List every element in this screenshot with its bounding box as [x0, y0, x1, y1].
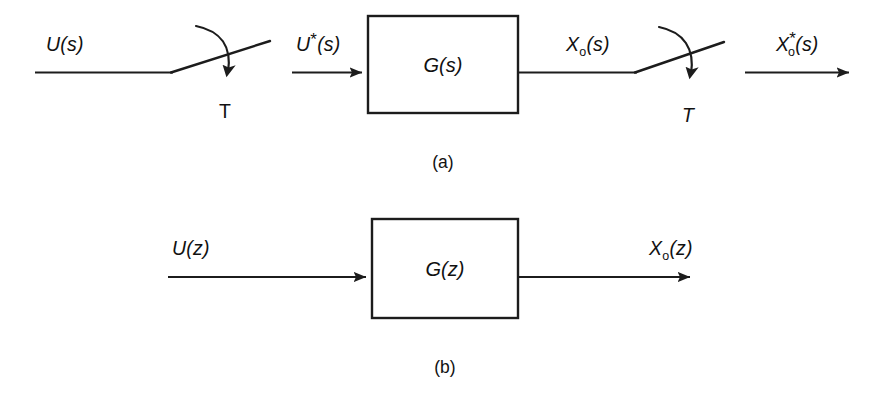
- label-u-star-s: U*(s): [296, 30, 340, 55]
- label-xo-z-sub: o: [662, 249, 669, 263]
- label-xo-star-s-sub: o: [788, 45, 795, 59]
- label-u-s-base: U: [46, 33, 61, 55]
- label-xo-z-arg: (z): [669, 237, 692, 259]
- label-xo-s-sub: o: [579, 45, 586, 59]
- label-u-star-s-base: U: [296, 33, 311, 55]
- label-u-z: U(z): [172, 237, 210, 259]
- caption-panel-b: (b): [434, 357, 455, 377]
- label-u-z-arg: (z): [186, 237, 209, 259]
- sampler-input-arm: [171, 41, 270, 73]
- label-xo-z-base: X: [648, 237, 663, 259]
- label-sampling-period-input: T: [219, 100, 231, 122]
- block-label-g-s: G(s): [424, 54, 463, 76]
- label-xo-s-arg: (s): [586, 33, 609, 55]
- label-xo-s: Xo(s): [565, 33, 610, 59]
- label-u-z-base: U: [172, 237, 187, 259]
- label-u-s-arg: (s): [60, 33, 83, 55]
- label-u-s: U(s): [46, 33, 84, 55]
- sampler-input-sweep-arrow: [196, 26, 229, 72]
- label-xo-star-s-arg: (s): [795, 33, 818, 55]
- block-diagram-canvas: U(s) U*(s) Xo(s) X*o(s) T T G(s) (a): [0, 0, 891, 393]
- label-xo-s-base: X: [565, 33, 580, 55]
- sampler-output-arm: [635, 42, 724, 73]
- label-u-star-s-arg: (s): [317, 33, 340, 55]
- caption-panel-a: (a): [432, 152, 453, 172]
- label-xo-star-s: X*o(s): [775, 29, 819, 59]
- label-sampling-period-output: T: [682, 104, 696, 126]
- sampler-output-sweep-arrow: [659, 27, 692, 74]
- label-xo-z: Xo(z): [648, 237, 693, 263]
- block-label-g-z: G(z): [426, 258, 465, 280]
- figure-root: U(s) U*(s) Xo(s) X*o(s) T T G(s) (a): [0, 0, 891, 393]
